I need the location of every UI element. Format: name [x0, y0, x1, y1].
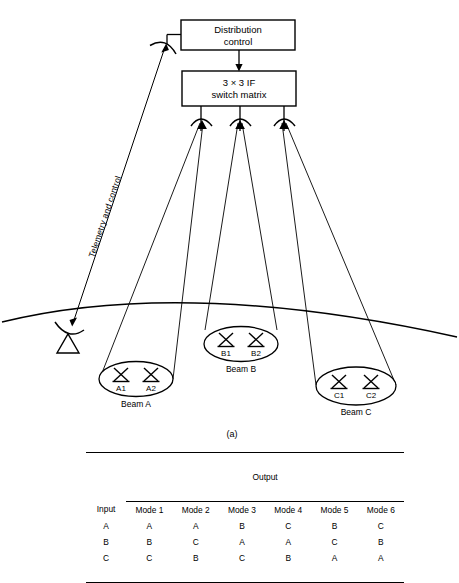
- group-header-spacer: [86, 469, 126, 485]
- header-mode-1: Mode 1: [126, 501, 172, 518]
- antenna-a2-label: A2: [146, 384, 156, 393]
- output-group-rule: [126, 485, 404, 501]
- row-0-mode-2: A: [173, 518, 219, 534]
- distribution-control-line1: Distribution: [214, 24, 262, 35]
- antenna-c1-label: C1: [334, 391, 345, 400]
- figure-caption: (a): [227, 429, 238, 439]
- row-0-input: A: [86, 518, 126, 534]
- table-group-header-row: Output: [86, 469, 404, 485]
- row-2-mode-2: B: [173, 550, 219, 566]
- header-mode-3: Mode 3: [219, 501, 265, 518]
- row-1-mode-3: A: [219, 534, 265, 550]
- telemetry-control-label-group: Telemetry and control: [86, 174, 123, 258]
- table-group-rule-row: [86, 485, 404, 501]
- switch-matrix-line1: 3 × 3 IF: [223, 77, 256, 88]
- beam-c-label: Beam C: [341, 407, 372, 417]
- ground-station-antenna: [55, 322, 84, 353]
- header-mode-2: Mode 2: [173, 501, 219, 518]
- beam-a-label: Beam A: [121, 399, 151, 409]
- antenna-b2-label: B2: [251, 349, 261, 358]
- row-2-mode-3: C: [219, 550, 265, 566]
- switch-matrix-box: 3 × 3 IF switch matrix: [182, 71, 296, 106]
- row-1-mode-6: B: [358, 534, 404, 550]
- distribution-control-box: Distribution control: [181, 20, 295, 50]
- beam-a-footprint: A1 A2 Beam A: [99, 362, 173, 410]
- row-2-mode-5: A: [311, 550, 357, 566]
- row-2-mode-4: B: [265, 550, 311, 566]
- table-bottom-rule: [86, 566, 404, 583]
- control-to-matrix-arrow: [235, 50, 242, 72]
- row-2-mode-1: C: [126, 550, 172, 566]
- telemetry-control-label: Telemetry and control: [86, 174, 123, 258]
- row-2-input: C: [86, 550, 126, 566]
- table-row: B B C A A C B: [86, 534, 404, 550]
- row-1-input: B: [86, 534, 126, 550]
- row-1-mode-1: B: [126, 534, 172, 550]
- output-group-header: Output: [126, 469, 404, 485]
- antenna-a1-label: A1: [116, 384, 126, 393]
- antenna-c2-label: C2: [366, 391, 377, 400]
- row-0-mode-4: C: [265, 518, 311, 534]
- beam-c-footprint: C1 C2 Beam C: [316, 367, 396, 417]
- beam-b-ellipse: [204, 327, 278, 362]
- header-input: Input: [86, 501, 126, 518]
- table-header-row: Input Mode 1 Mode 2 Mode 3 Mode 4 Mode 5…: [86, 501, 404, 518]
- row-2-mode-6: A: [358, 550, 404, 566]
- beam-c-cone: [279, 120, 396, 385]
- table-row: C C B C B A A: [86, 550, 404, 566]
- row-1-mode-4: A: [265, 534, 311, 550]
- beam-c-arrowhead: [279, 120, 289, 129]
- mode-table: Output Input Mode 1 Mode 2 Mode 3 Mode 4…: [86, 452, 404, 583]
- switch-matrix-line2: switch matrix: [212, 89, 267, 100]
- row-0-mode-5: B: [311, 518, 357, 534]
- row-0-mode-6: C: [358, 518, 404, 534]
- beam-a-arrowhead: [197, 120, 207, 129]
- beam-a-cone: [100, 120, 207, 379]
- row-1-mode-2: C: [173, 534, 219, 550]
- beam-c-ellipse: [316, 367, 396, 405]
- header-mode-5: Mode 5: [311, 501, 357, 518]
- beam-b-arrowhead: [235, 120, 245, 129]
- group-rule-spacer: [86, 485, 126, 501]
- mode-table-container: Output Input Mode 1 Mode 2 Mode 3 Mode 4…: [86, 452, 404, 550]
- header-mode-6: Mode 6: [358, 501, 404, 518]
- beam-b-footprint: B1 B2 Beam B: [204, 327, 278, 375]
- header-mode-4: Mode 4: [265, 501, 311, 518]
- row-1-mode-5: C: [311, 534, 357, 550]
- table-top-rule: [86, 453, 404, 470]
- distribution-control-line2: control: [224, 36, 253, 47]
- beam-a-ellipse: [99, 362, 173, 397]
- row-0-mode-1: A: [126, 518, 172, 534]
- beam-b-cone: [205, 120, 277, 330]
- row-0-mode-3: B: [219, 518, 265, 534]
- beam-b-label: Beam B: [226, 364, 257, 374]
- table-row: A A A B C B C: [86, 518, 404, 534]
- antenna-b1-label: B1: [221, 349, 231, 358]
